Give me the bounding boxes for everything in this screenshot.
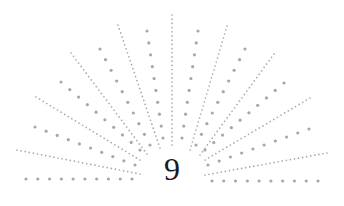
ray-big-dots [24, 177, 133, 180]
ray-big-dots [145, 29, 164, 139]
ray-big-dots [59, 80, 141, 151]
ray-small-dots [204, 152, 328, 176]
ray-big-dots [180, 29, 199, 139]
ray-big-dots [206, 127, 310, 166]
ray-big-dots [210, 179, 319, 182]
ray-big-dots [33, 125, 136, 166]
ray-small-dots [189, 25, 228, 151]
numeral-label: 9 [150, 150, 194, 188]
ray-small-dots [16, 149, 141, 175]
ray-small-dots [117, 24, 161, 149]
ray-big-dots [98, 47, 151, 146]
ray-big-dots [194, 47, 246, 146]
ray-small-dots [70, 52, 148, 155]
ray-small-dots [171, 14, 173, 146]
sunburst-graphic: 9 [0, 0, 344, 206]
ray-big-dots [203, 81, 285, 151]
